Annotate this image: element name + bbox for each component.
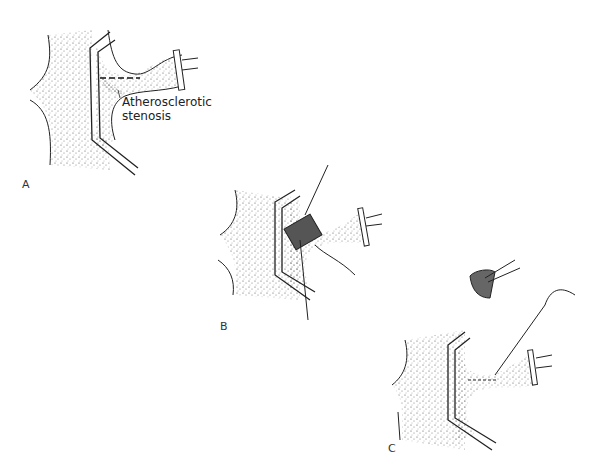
panel-b: B (200, 160, 400, 340)
closure-illustration (380, 250, 592, 473)
panel-label-b: B (220, 320, 228, 333)
annotation-line-1: Atherosclerotic (122, 95, 212, 109)
arteriotomy-illustration (200, 160, 400, 340)
annotation-line-2: stenosis (122, 109, 212, 123)
panel-label-a: A (22, 178, 30, 191)
panel-c: C (380, 250, 592, 473)
stenosis-annotation: Atherosclerotic stenosis (122, 95, 212, 123)
panel-label-c: C (388, 442, 396, 455)
